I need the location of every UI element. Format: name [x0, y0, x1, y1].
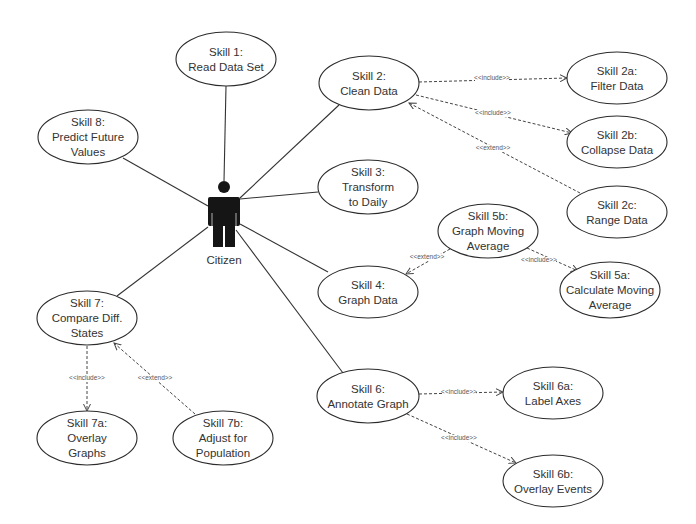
extend-label: <<extend>>: [138, 374, 173, 381]
use-case-s2b[interactable]: Skill 2b:Collapse Data: [567, 116, 667, 168]
use-case-label-line: Calculate Moving: [566, 284, 654, 296]
use-case-label-line: Overlay Events: [514, 483, 592, 495]
use-case-label-line: Skill 7a:: [67, 417, 107, 429]
association-citizen-s3: [240, 192, 318, 199]
include-label: <<include>>: [441, 388, 477, 395]
association-citizen-s4: [240, 224, 328, 272]
include-label: <<include>>: [69, 374, 105, 381]
extend-relationship-s5b-s4: <<extend>>: [406, 249, 450, 274]
use-case-label-line: Transform: [342, 181, 394, 193]
use-case-s7b[interactable]: Skill 7b:Adjust forPopulation: [173, 411, 273, 465]
use-case-label-line: Skill 8:: [71, 116, 105, 128]
use-case-label-line: Filter Data: [590, 80, 644, 92]
use-case-label-line: Skill 7b:: [203, 417, 243, 429]
use-case-label-line: Label Axes: [525, 395, 582, 407]
use-case-label-line: Skill 1:: [209, 46, 243, 58]
use-case-ellipse: [319, 56, 419, 110]
use-case-label-line: Skill 2c:: [597, 199, 637, 211]
use-case-label-line: Graph Data: [338, 294, 398, 306]
include-label: <<include>>: [475, 109, 511, 116]
use-case-s1[interactable]: Skill 1:Read Data Set: [176, 32, 276, 86]
association-citizen-s7: [117, 227, 208, 296]
use-case-label-line: States: [71, 327, 104, 339]
actor-head-icon: [218, 181, 230, 193]
actor-citizen[interactable]: Citizen: [206, 181, 241, 266]
include-relationship-s2-s2a: <<include>>: [419, 74, 567, 82]
extend-label: <<extend>>: [476, 144, 511, 151]
use-case-label-line: Values: [71, 146, 106, 158]
use-case-label-line: Skill 7:: [70, 297, 104, 309]
use-case-s6[interactable]: Skill 6:Annotate Graph: [317, 369, 419, 423]
include-relationship-s2-s2b: <<include>>: [416, 95, 572, 133]
include-relationship-s6-s6b: <<include>>: [407, 414, 516, 463]
use-case-label-line: Skill 6a:: [533, 380, 573, 392]
include-label: <<include>>: [474, 74, 510, 81]
use-case-ellipse: [318, 266, 418, 318]
use-case-label-line: Skill 4:: [351, 279, 385, 291]
use-case-label-line: Clean Data: [340, 85, 398, 97]
use-case-label-line: Average: [589, 299, 632, 311]
include-relationship-s6-s6a: <<include>>: [419, 388, 503, 396]
use-case-label-line: Skill 2a:: [597, 65, 637, 77]
use-case-ellipse: [317, 369, 419, 423]
use-case-s7[interactable]: Skill 7:Compare Diff.States: [37, 291, 137, 345]
association-citizen-s8: [123, 158, 208, 206]
use-case-ellipse: [567, 186, 667, 238]
use-case-label-line: Skill 3:: [351, 166, 385, 178]
use-case-label-line: Predict Future: [52, 131, 124, 143]
use-case-s2c[interactable]: Skill 2c:Range Data: [567, 186, 667, 238]
use-case-s2a[interactable]: Skill 2a:Filter Data: [567, 52, 667, 104]
use-case-label-line: Population: [196, 447, 250, 459]
include-label: <<include>>: [521, 256, 557, 263]
use-case-label-line: Graph Moving: [452, 225, 524, 237]
use-case-s2[interactable]: Skill 2:Clean Data: [319, 56, 419, 110]
use-case-label-line: Skill 6b:: [533, 468, 573, 480]
use-case-label-line: to Daily: [349, 196, 388, 208]
use-case-s6a[interactable]: Skill 6a:Label Axes: [503, 367, 603, 419]
use-case-label-line: Skill 5a:: [590, 269, 630, 281]
use-case-label-line: Overlay: [67, 432, 107, 444]
extend-label: <<extend>>: [410, 253, 445, 260]
use-case-ellipse: [567, 116, 667, 168]
extend-relationship-s7b-s7: <<extend>>: [114, 343, 195, 414]
use-case-s8[interactable]: Skill 8:Predict FutureValues: [38, 110, 138, 164]
include-label: <<include>>: [441, 434, 477, 441]
use-case-s7a[interactable]: Skill 7a:OverlayGraphs: [37, 411, 137, 465]
use-case-label-line: Annotate Graph: [327, 398, 408, 410]
use-case-label-line: Range Data: [586, 214, 648, 226]
use-case-label-line: Skill 2b:: [597, 129, 637, 141]
actor-body-icon: [208, 197, 240, 247]
use-case-s6b[interactable]: Skill 6b:Overlay Events: [503, 455, 603, 507]
use-case-label-line: Adjust for: [199, 432, 248, 444]
actor-label: Citizen: [206, 254, 241, 266]
use-case-s4[interactable]: Skill 4:Graph Data: [318, 266, 418, 318]
association-citizen-s1: [224, 86, 226, 181]
include-relationship-s5b-s5a: <<include>>: [521, 248, 578, 271]
use-case-ellipse: [503, 367, 603, 419]
use-case-label-line: Skill 5b:: [468, 210, 508, 222]
use-case-diagram: <<include>><<include>><<extend>><<extend…: [0, 0, 696, 524]
use-case-ellipse: [503, 455, 603, 507]
use-case-label-line: Skill 6:: [351, 383, 385, 395]
use-cases: Skill 1:Read Data SetSkill 2:Clean DataS…: [37, 32, 667, 507]
use-case-ellipse: [567, 52, 667, 104]
include-relationship-s7-s7a: <<include>>: [69, 346, 105, 411]
use-case-label-line: Graphs: [68, 447, 106, 459]
use-case-label-line: Compare Diff.: [52, 312, 123, 324]
use-case-label-line: Collapse Data: [581, 144, 654, 156]
use-case-s5b[interactable]: Skill 5b:Graph MovingAverage: [438, 204, 538, 258]
use-case-s5a[interactable]: Skill 5a:Calculate MovingAverage: [560, 262, 660, 318]
use-case-s3[interactable]: Skill 3:Transformto Daily: [318, 160, 418, 214]
use-case-label-line: Average: [467, 240, 510, 252]
use-case-label-line: Read Data Set: [188, 61, 264, 73]
use-case-ellipse: [176, 32, 276, 86]
use-case-label-line: Skill 2:: [352, 70, 386, 82]
